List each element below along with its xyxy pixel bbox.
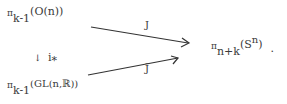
bottom-arrowhead [171, 56, 178, 64]
top-arrow [91, 27, 188, 43]
arrows [0, 0, 287, 104]
bottom-arrow [88, 58, 178, 75]
